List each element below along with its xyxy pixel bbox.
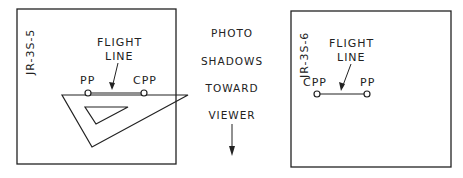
viewer-arrow-head-icon — [229, 146, 235, 156]
right-cpp-label: CPP — [303, 76, 327, 89]
right-cpp-point — [314, 91, 320, 97]
right-pp-point — [364, 91, 370, 97]
left-pp-point — [85, 90, 91, 96]
center-line-toward: TOWARD — [192, 82, 272, 94]
left-flight-label-2: LINE — [105, 50, 134, 63]
right-flight-label-2: LINE — [337, 51, 366, 64]
left-flight-label-1: FLIGHT — [97, 36, 142, 49]
left-arrow-head-icon — [109, 82, 115, 90]
left-photo-id: JR-3S-5 — [24, 29, 37, 75]
center-line-photo: PHOTO — [192, 27, 272, 39]
center-line-shadows: SHADOWS — [192, 55, 272, 67]
left-cpp-label: CPP — [133, 74, 157, 87]
right-photo-frame — [291, 11, 451, 167]
triangle-scale-outer — [62, 95, 188, 147]
left-cpp-point — [141, 90, 147, 96]
right-flight-label-1: FLIGHT — [329, 37, 374, 50]
center-line-viewer: VIEWER — [192, 109, 272, 121]
right-photo-id: JR-3S-6 — [298, 32, 311, 78]
right-pp-label: PP — [360, 76, 375, 89]
triangle-scale-inner — [85, 107, 128, 124]
left-pp-label: PP — [80, 74, 95, 87]
